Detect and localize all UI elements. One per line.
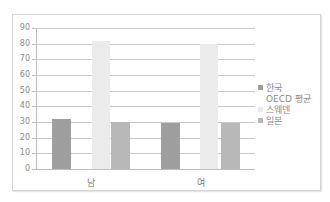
bar-sweden-female: [200, 44, 218, 169]
y-label-60: 60: [14, 71, 30, 79]
y-tick: [32, 106, 36, 107]
y-tick: [32, 44, 36, 45]
legend-swatch-korea: [258, 85, 263, 90]
y-label-10: 10: [14, 149, 30, 157]
y-label-0: 0: [14, 165, 30, 173]
y-tick: [32, 75, 36, 76]
y-tick: [32, 153, 36, 154]
y-label-40: 40: [14, 102, 30, 110]
y-tick: [32, 59, 36, 60]
y-label-90: 90: [14, 24, 30, 32]
legend-swatch-japan: [258, 118, 263, 123]
y-label-20: 20: [14, 134, 30, 142]
y-tick: [32, 91, 36, 92]
legend-item-japan: 일본: [258, 115, 311, 126]
y-axis-line: [36, 28, 37, 170]
y-label-30: 30: [14, 118, 30, 126]
y-tick: [32, 28, 36, 29]
gridline: [37, 106, 255, 107]
bar-korea-male: [52, 119, 71, 169]
bar-japan-female: [221, 123, 240, 169]
x-axis-line: [37, 169, 255, 170]
bar-sweden-male: [92, 41, 110, 169]
gridline: [37, 28, 255, 29]
y-tick: [32, 169, 36, 170]
bar-korea-female: [161, 123, 180, 169]
gridline: [37, 59, 255, 60]
legend-swatch-oecd: [258, 96, 263, 101]
gridline: [37, 91, 255, 92]
x-label-male: 남: [76, 176, 106, 189]
gridline: [37, 75, 255, 76]
y-tick: [32, 138, 36, 139]
y-tick: [32, 122, 36, 123]
y-label-70: 70: [14, 55, 30, 63]
gridline: [37, 44, 255, 45]
legend: 한국 OECD 평균 스웨덴 일본: [258, 82, 311, 126]
x-label-female: 여: [186, 176, 216, 189]
legend-label-japan: 일본: [266, 114, 282, 127]
legend-swatch-sweden: [258, 107, 263, 112]
bar-japan-male: [111, 122, 130, 169]
y-label-50: 50: [14, 87, 30, 95]
y-label-80: 80: [14, 40, 30, 48]
